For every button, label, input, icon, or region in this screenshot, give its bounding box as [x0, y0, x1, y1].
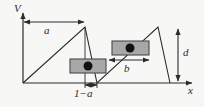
block-2-center-dot	[126, 44, 135, 53]
dimension-label-b: b	[124, 63, 130, 74]
dimension-label-one-minus-a: 1−a	[74, 88, 92, 99]
dimension-label-d: d	[183, 47, 189, 58]
sawtooth-potential-diagram: V x a 1−a b d	[0, 0, 204, 107]
block-1-center-dot	[84, 62, 93, 71]
diagram-canvas	[0, 0, 204, 107]
dimension-label-a: a	[44, 25, 50, 36]
x-axis-label: x	[188, 85, 193, 96]
v-axis-label: V	[14, 3, 21, 14]
